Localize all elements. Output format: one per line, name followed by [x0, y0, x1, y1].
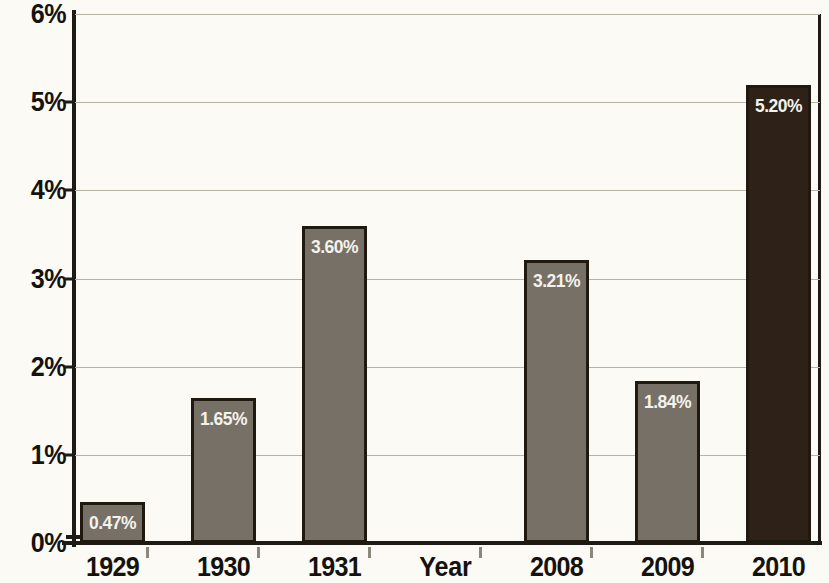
bar-chart: 6% 5% 4% 3% 2% 1% 0% 0.47% 1.65% 3.60%	[0, 0, 829, 583]
bar-label-2008: 3.21%	[529, 270, 583, 292]
bar-2009[interactable]: 1.84%	[635, 381, 700, 543]
bar-label-1931: 3.60%	[307, 236, 361, 258]
bar-1931[interactable]: 3.60%	[302, 226, 367, 543]
x-axis-label-2010: 2010	[727, 552, 829, 583]
bar-label-1930: 1.65%	[196, 408, 250, 430]
plot-area: 0.47% 1.65% 3.60% 3.21% 1.84% 5.20%	[75, 14, 820, 543]
gridline-2	[75, 367, 820, 368]
y-axis-labels: 6% 5% 4% 3% 2% 1% 0%	[0, 0, 66, 583]
y-axis-label-0: 0%	[10, 528, 66, 559]
y-axis-label-4: 4%	[10, 175, 66, 206]
gridline-5	[75, 102, 820, 103]
y-axis-label-6: 6%	[10, 0, 66, 30]
x-axis-label-1929: 1929	[61, 552, 164, 583]
x-axis-title: Year	[394, 552, 497, 583]
bar-2008[interactable]: 3.21%	[524, 260, 589, 543]
y-axis-label-2: 2%	[10, 352, 66, 383]
gridline-3	[75, 279, 820, 280]
x-axis-label-2008: 2008	[505, 552, 608, 583]
y-axis-label-5: 5%	[10, 87, 66, 118]
x-axis-label-1930: 1930	[172, 552, 275, 583]
bar-1929[interactable]: 0.47%	[80, 502, 145, 543]
x-axis-label-2009: 2009	[616, 552, 719, 583]
y-axis-label-1: 1%	[10, 440, 66, 471]
bar-label-2009: 1.84%	[640, 391, 694, 413]
x-axis-label-1931: 1931	[283, 552, 386, 583]
bar-label-1929: 0.47%	[85, 512, 139, 534]
bar-2010[interactable]: 5.20%	[746, 85, 811, 543]
bar-1930[interactable]: 1.65%	[191, 398, 256, 543]
gridline-4	[75, 190, 820, 191]
bar-label-2010: 5.20%	[751, 95, 805, 117]
gridline-6	[75, 14, 820, 15]
gridline-1	[75, 455, 820, 456]
y-axis-label-3: 3%	[10, 264, 66, 295]
